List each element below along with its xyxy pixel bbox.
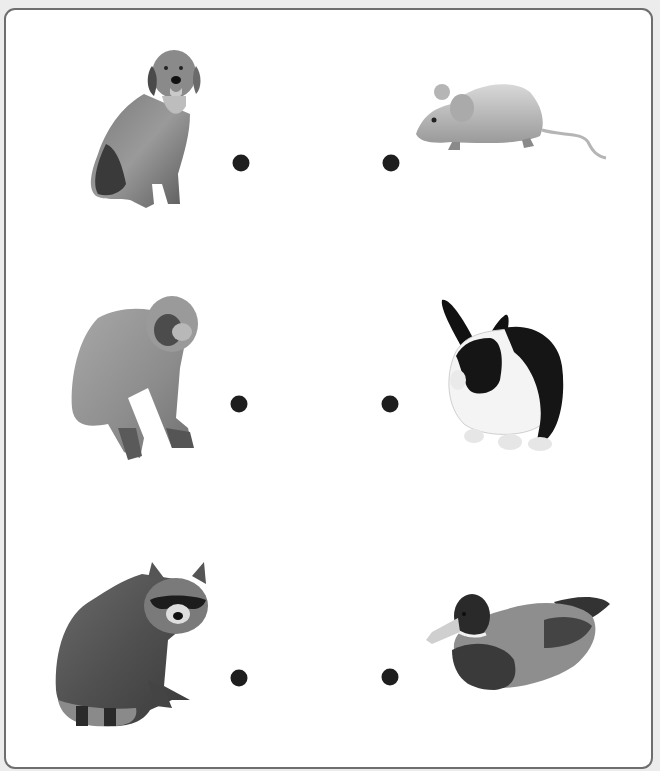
mouse-image: mouse: [412, 78, 608, 164]
rabbit-image: rabbit: [440, 296, 568, 452]
mouse-icon: [412, 78, 608, 164]
dog-image: dog: [86, 44, 208, 212]
duck-image: duck: [424, 590, 612, 694]
duck-icon: [424, 590, 612, 694]
monkey-icon: [68, 288, 200, 464]
raccoon-icon: [52, 560, 212, 730]
rabbit-icon: [440, 296, 568, 452]
monkey-match-dot[interactable]: [231, 396, 248, 413]
raccoon-image: raccoon: [52, 560, 212, 730]
dog-icon: [86, 44, 208, 212]
duck-match-dot[interactable]: [382, 669, 399, 686]
rabbit-match-dot[interactable]: [382, 396, 399, 413]
monkey-image: monkey: [68, 288, 200, 464]
mouse-match-dot[interactable]: [383, 155, 400, 172]
dog-match-dot[interactable]: [233, 155, 250, 172]
raccoon-match-dot[interactable]: [231, 670, 248, 687]
